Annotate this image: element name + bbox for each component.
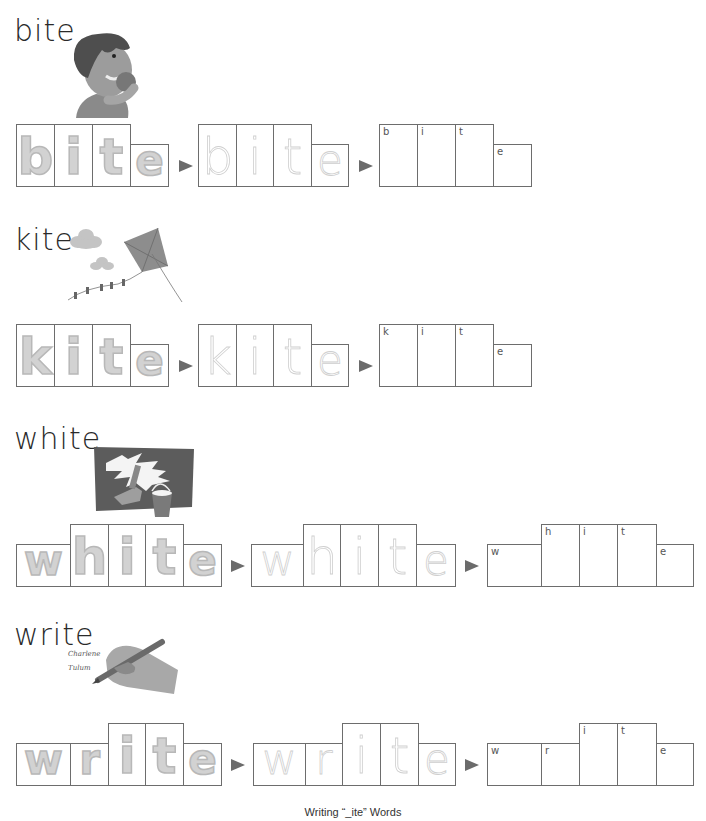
arrow-right-icon bbox=[231, 560, 245, 572]
kite-and-clouds-illustration bbox=[60, 224, 190, 306]
letter-box-dotted[interactable]: t bbox=[273, 124, 312, 187]
letter-box-dotted[interactable]: i bbox=[340, 524, 379, 587]
letter-box-traced: t bbox=[145, 723, 184, 786]
letter-box-traced: i bbox=[54, 324, 93, 387]
letter-box-dotted[interactable]: i bbox=[236, 324, 274, 387]
letter-box-dotted[interactable]: k bbox=[198, 324, 237, 387]
letter-box-traced: h bbox=[70, 524, 109, 587]
letter-box-dotted[interactable]: e bbox=[311, 144, 349, 187]
letter-box-traced: r bbox=[70, 743, 109, 786]
arrow-right-icon bbox=[359, 360, 373, 372]
letter-box-dotted[interactable]: h bbox=[303, 524, 341, 587]
letter-box-traced: i bbox=[54, 124, 93, 187]
arrow-right-icon bbox=[179, 360, 193, 372]
letter-box-dotted[interactable]: w bbox=[251, 544, 304, 587]
letter-box-traced: e bbox=[130, 144, 169, 187]
letter-box-dotted[interactable]: r bbox=[305, 743, 343, 786]
letter-box-blank[interactable]: k bbox=[379, 324, 418, 387]
letter-box-traced: w bbox=[16, 743, 71, 786]
letter-box-blank[interactable]: i bbox=[417, 124, 456, 187]
letter-box-traced: e bbox=[183, 743, 222, 786]
svg-text:Charlene: Charlene bbox=[68, 650, 100, 658]
tracing-row: w h i t e w h i t e w h i t e bbox=[0, 524, 706, 604]
letter-box-traced: i bbox=[108, 723, 146, 786]
letter-box-traced: t bbox=[145, 524, 184, 587]
letter-box-dotted[interactable]: e bbox=[311, 344, 349, 387]
letter-box-traced: k bbox=[16, 324, 55, 387]
letter-box-dotted[interactable]: i bbox=[236, 124, 274, 187]
letter-box-blank[interactable]: r bbox=[541, 743, 580, 786]
boy-biting-apple-illustration bbox=[68, 30, 148, 118]
letter-box-blank[interactable]: t bbox=[455, 324, 494, 387]
letter-box-blank[interactable]: t bbox=[455, 124, 494, 187]
word-title: bite bbox=[14, 13, 76, 48]
letter-box-traced: e bbox=[130, 344, 169, 387]
letter-box-blank[interactable]: t bbox=[617, 524, 657, 587]
hand-writing-pencil-illustration: Charlene Tulum bbox=[64, 638, 182, 702]
letter-box-dotted[interactable]: e bbox=[416, 544, 456, 587]
letter-box-blank[interactable]: t bbox=[617, 723, 657, 786]
letter-box-dotted[interactable]: t bbox=[378, 524, 417, 587]
letter-box-blank[interactable]: e bbox=[493, 344, 532, 387]
arrow-right-icon bbox=[359, 160, 373, 172]
tracing-row: b i t e b i t e b i t e bbox=[0, 124, 706, 204]
letter-box-traced: t bbox=[92, 324, 131, 387]
letter-box-blank[interactable]: w bbox=[487, 544, 542, 587]
letter-box-blank[interactable]: e bbox=[656, 743, 694, 786]
arrow-right-icon bbox=[179, 160, 193, 172]
letter-box-traced: t bbox=[92, 124, 131, 187]
letter-box-blank[interactable]: w bbox=[487, 743, 542, 786]
letter-box-traced: i bbox=[108, 524, 146, 587]
letter-box-blank[interactable]: i bbox=[579, 524, 618, 587]
letter-box-blank[interactable]: e bbox=[656, 544, 694, 587]
letter-box-dotted[interactable]: b bbox=[198, 124, 237, 187]
letter-box-blank[interactable]: i bbox=[579, 723, 618, 786]
letter-box-dotted[interactable]: e bbox=[418, 743, 456, 786]
white-paint-bucket-illustration bbox=[92, 445, 196, 521]
letter-box-traced: e bbox=[183, 544, 222, 587]
arrow-right-icon bbox=[465, 759, 479, 771]
arrow-right-icon bbox=[465, 560, 479, 572]
word-title: white bbox=[14, 421, 101, 456]
letter-box-dotted[interactable]: w bbox=[253, 743, 306, 786]
letter-box-dotted[interactable]: t bbox=[380, 723, 419, 786]
page-caption: Writing “_ite” Words bbox=[0, 806, 706, 818]
letter-box-blank[interactable]: b bbox=[379, 124, 418, 187]
tracing-row: k i t e k i t e k i t e bbox=[0, 324, 706, 404]
tracing-row: w r i t e w r i t e w r i t e bbox=[0, 723, 706, 803]
letter-box-dotted[interactable]: t bbox=[273, 324, 312, 387]
letter-box-dotted[interactable]: i bbox=[342, 723, 381, 786]
letter-box-blank[interactable]: e bbox=[493, 144, 532, 187]
letter-box-traced: w bbox=[16, 544, 71, 587]
letter-box-traced: b bbox=[16, 124, 55, 187]
letter-box-blank[interactable]: i bbox=[417, 324, 456, 387]
arrow-right-icon bbox=[231, 759, 245, 771]
letter-box-blank[interactable]: h bbox=[541, 524, 580, 587]
svg-text:Tulum: Tulum bbox=[68, 664, 91, 672]
